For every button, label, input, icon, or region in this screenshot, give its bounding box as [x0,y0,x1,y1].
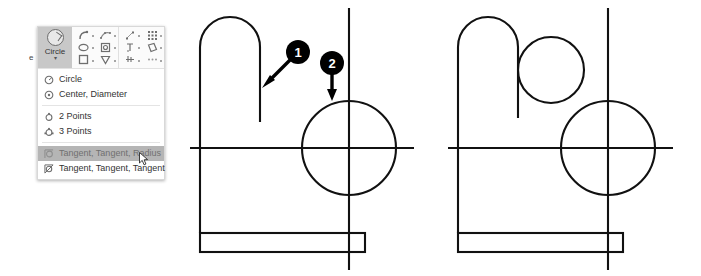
spline-icon[interactable] [95,29,117,41]
polygon-icon[interactable] [95,54,117,66]
center-diameter-icon [43,89,54,100]
right-drawing-after [448,8,673,270]
menu-item-3-points-label: 3 Points [59,126,92,137]
arc-icon[interactable] [73,29,95,41]
callout-2-leader [327,73,337,101]
callout-badge-2: 2 [320,51,344,75]
menu-separator [42,142,160,143]
tangent-tangent-tangent-icon [43,163,54,174]
menu-item-3-points[interactable]: 3 Points [38,124,164,139]
text-icon[interactable] [120,41,142,53]
callout-1-leader [262,58,292,88]
mouse-cursor-icon [139,152,149,166]
plane-icon[interactable] [141,41,163,53]
two-points-icon [43,111,54,122]
arch-profile-right [458,17,518,233]
three-points-icon [43,126,54,137]
circle-icon [43,74,54,85]
base-rectangle-right [458,233,623,252]
rectangle-icon[interactable] [73,54,95,66]
tangent-circle-right [518,37,584,103]
ellipse-icon[interactable] [73,41,95,53]
base-rectangle-left [200,233,365,252]
callout-badge-2-label: 2 [328,56,335,71]
callout-badge-1: 1 [286,40,310,64]
circle-tool-button[interactable]: e Circle ▾ [38,27,72,68]
menu-item-center-diameter[interactable]: Center, Diameter [38,87,164,102]
slot-icon[interactable] [95,41,117,53]
circle-tool-icon [47,29,64,46]
menu-separator [42,105,160,106]
sketch-entities-group [72,27,119,68]
sketch-tools-group [119,27,165,68]
tangent-tangent-radius-icon [43,148,54,159]
grid-pattern-icon[interactable] [141,29,163,41]
truncated-ribbon-text: e [29,53,33,62]
menu-item-circle[interactable]: Circle [38,72,164,87]
more-icon[interactable] [141,54,163,66]
chevron-down-icon: ▾ [54,56,57,61]
ribbon-row: e Circle ▾ [38,27,164,69]
dimension-icon[interactable] [120,54,142,66]
menu-item-2-points-label: 2 Points [59,111,92,122]
menu-item-center-diameter-label: Center, Diameter [59,89,127,100]
callout-badge-1-label: 1 [294,45,301,60]
menu-item-circle-label: Circle [59,74,82,85]
menu-item-2-points[interactable]: 2 Points [38,109,164,124]
point-icon[interactable] [120,29,142,41]
arch-profile-left [200,17,260,233]
